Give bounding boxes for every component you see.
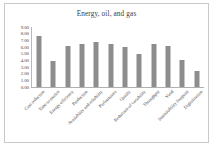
y-axis-tick-label: 6.00 — [21, 45, 29, 50]
bar[interactable] — [180, 60, 185, 87]
y-axis-tick-label: 1.00 — [21, 78, 29, 83]
bar-slot — [89, 27, 103, 87]
bar-slot — [46, 27, 60, 87]
y-axis-tick-label: 3.00 — [21, 65, 29, 70]
bar[interactable] — [37, 36, 42, 87]
y-axis-tick-label: 5.00 — [21, 51, 29, 56]
y-axis-tick-label: 7.00 — [21, 38, 29, 43]
bar-slot — [32, 27, 46, 87]
bar[interactable] — [65, 46, 70, 87]
bar-slot — [104, 27, 118, 87]
y-axis-tick-label: 9.00 — [21, 25, 29, 30]
bar-slot — [61, 27, 75, 87]
x-axis-category-label: Yield — [164, 89, 174, 99]
bar[interactable] — [123, 47, 128, 87]
y-axis-tick-label: 4.00 — [21, 58, 29, 63]
bar-slot — [175, 27, 189, 87]
chart-title: Energy, oil, and gas — [5, 10, 208, 18]
bar[interactable] — [94, 42, 99, 87]
y-axis-tick-labels: 9.008.007.006.005.004.003.002.001.000.00 — [9, 27, 30, 88]
bar[interactable] — [80, 44, 85, 87]
x-axis-category-label: Quality — [119, 89, 132, 102]
x-axis-category-labels: Cost reductionTime to marketEnergy effic… — [32, 89, 204, 145]
y-axis-tick-label: 0.00 — [21, 85, 29, 90]
bar[interactable] — [151, 44, 156, 87]
chart-frame: Energy, oil, and gas 9.008.007.006.005.0… — [4, 3, 209, 143]
bar-slot — [75, 27, 89, 87]
bar-slot — [190, 27, 204, 87]
bar[interactable] — [137, 54, 142, 87]
bar[interactable] — [194, 71, 199, 87]
bar[interactable] — [166, 46, 171, 87]
bar-slot — [132, 27, 146, 87]
bar-slot — [147, 27, 161, 87]
bar-slot — [118, 27, 132, 87]
bar-series — [32, 27, 204, 87]
bar[interactable] — [108, 44, 113, 87]
bar-slot — [161, 27, 175, 87]
bar[interactable] — [51, 61, 56, 87]
y-axis-tick-label: 2.00 — [21, 71, 29, 76]
y-axis-tick-label: 8.00 — [21, 31, 29, 36]
